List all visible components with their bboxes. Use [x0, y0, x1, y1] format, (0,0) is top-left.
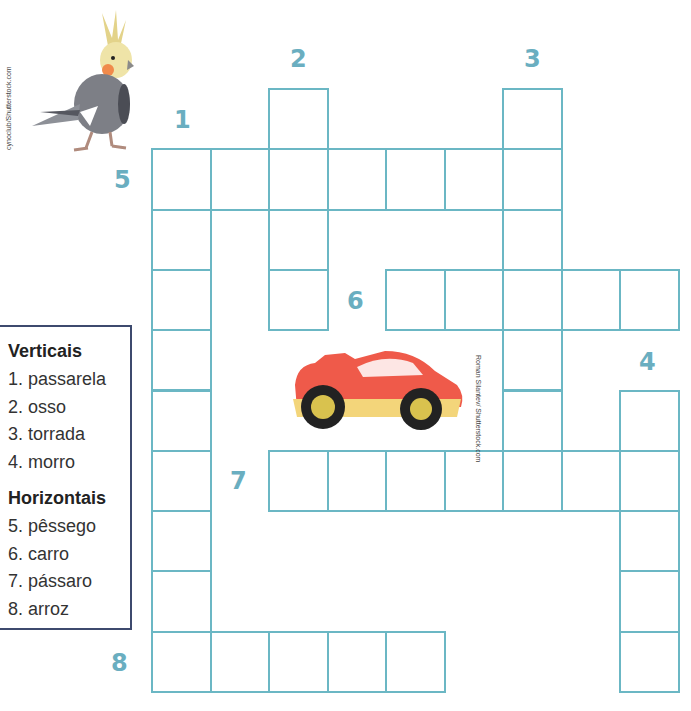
horizontal-word: 8. arroz	[8, 596, 130, 624]
crossword-cell[interactable]	[502, 269, 563, 331]
crossword-cell[interactable]	[385, 631, 446, 693]
clue-number-4: 4	[639, 348, 656, 376]
crossword-cell[interactable]	[502, 148, 563, 210]
clue-number-3: 3	[524, 45, 541, 73]
crossword-cell[interactable]	[268, 631, 329, 693]
crossword-cell[interactable]	[210, 148, 271, 210]
crossword-cell[interactable]	[619, 510, 680, 572]
crossword-cell[interactable]	[502, 390, 563, 452]
crossword-cell[interactable]	[151, 390, 212, 452]
word-list-box: Verticais 1. passarela 2. osso 3. torrad…	[0, 325, 132, 630]
crossword-cell[interactable]	[444, 148, 505, 210]
vertical-word: 3. torrada	[8, 421, 130, 449]
crossword-cell[interactable]	[268, 269, 329, 331]
crossword-cell[interactable]	[619, 450, 680, 512]
crossword-cell[interactable]	[268, 148, 329, 210]
crossword-cell[interactable]	[619, 390, 680, 452]
crossword-cell[interactable]	[151, 209, 212, 271]
crossword-cell[interactable]	[268, 209, 329, 271]
crossword-cell[interactable]	[268, 450, 329, 512]
crossword-cell[interactable]	[561, 269, 622, 331]
clue-number-7: 7	[230, 467, 247, 495]
crossword-cell[interactable]	[151, 148, 212, 210]
horizontal-word: 6. carro	[8, 541, 130, 569]
crossword-cell[interactable]	[151, 631, 212, 693]
horizontais-heading: Horizontais	[8, 488, 130, 509]
crossword-cell[interactable]	[385, 148, 446, 210]
crossword-cell[interactable]	[502, 209, 563, 271]
crossword-cell[interactable]	[619, 570, 680, 632]
crossword-cell[interactable]	[327, 450, 388, 512]
toy-car-image	[285, 345, 467, 435]
verticais-heading: Verticais	[8, 341, 130, 362]
crossword-cell[interactable]	[151, 510, 212, 572]
crossword-cell[interactable]	[502, 450, 563, 512]
crossword-cell[interactable]	[385, 269, 446, 331]
cockatiel-image	[30, 8, 140, 156]
crossword-cell[interactable]	[385, 450, 446, 512]
horizontal-word: 5. pêssego	[8, 513, 130, 541]
clue-number-5: 5	[114, 166, 131, 194]
clue-number-6: 6	[347, 287, 364, 315]
car-photo-credit: Roman Silantev/ Shutterstock.com	[475, 355, 482, 435]
clue-number-1: 1	[174, 106, 191, 134]
crossword-cell[interactable]	[502, 88, 563, 150]
crossword-cell[interactable]	[619, 631, 680, 693]
clue-number-8: 8	[111, 649, 128, 677]
crossword-cell[interactable]	[561, 450, 622, 512]
bird-photo-credit: cynoclub/Shutterstock.com	[5, 66, 12, 150]
crossword-cell[interactable]	[151, 269, 212, 331]
crossword-cell[interactable]	[327, 148, 388, 210]
crossword-cell[interactable]	[502, 329, 563, 391]
crossword-cell[interactable]	[210, 631, 271, 693]
crossword-cell[interactable]	[444, 269, 505, 331]
vertical-word: 2. osso	[8, 394, 130, 422]
crossword-cell[interactable]	[619, 269, 680, 331]
crossword-cell[interactable]	[268, 88, 329, 150]
clue-number-2: 2	[290, 45, 307, 73]
vertical-word: 4. morro	[8, 449, 130, 477]
horizontal-word: 7. pássaro	[8, 568, 130, 596]
crossword-cell[interactable]	[444, 450, 505, 512]
crossword-cell[interactable]	[151, 329, 212, 391]
crossword-cell[interactable]	[151, 450, 212, 512]
vertical-word: 1. passarela	[8, 366, 130, 394]
crossword-cell[interactable]	[327, 631, 388, 693]
crossword-cell[interactable]	[151, 570, 212, 632]
